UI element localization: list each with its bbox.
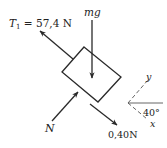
angle-label: 40°	[143, 107, 160, 118]
y-axis-label: y	[145, 71, 152, 82]
friction-arrow	[90, 104, 117, 125]
friction-label: 0,40N	[108, 129, 137, 140]
y-axis-line	[128, 80, 148, 103]
x-axis-label: x	[150, 118, 156, 129]
normal-force-arrow	[52, 92, 78, 121]
free-body-diagram: T1 = 57,4 N mg N 0,40N y x 40°	[0, 0, 167, 148]
weight-label: mg	[84, 6, 101, 18]
normal-force-label: N	[44, 122, 55, 135]
diagram-svg: T1 = 57,4 N mg N 0,40N y x 40°	[0, 0, 167, 148]
tension-label: T1 = 57,4 N	[9, 17, 72, 31]
tension-arrow	[40, 31, 73, 59]
